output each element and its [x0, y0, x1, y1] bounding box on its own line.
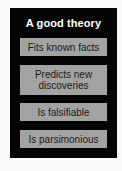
theory-criteria-panel: A good theory Fits known facts Predicts … — [10, 8, 117, 158]
criterion-label: Is parsimonious — [28, 134, 98, 145]
criterion-box-predicts-new-discoveries: Predicts new discoveries — [20, 65, 107, 95]
criterion-label: Fits known facts — [28, 42, 100, 53]
criterion-label: Predicts new discoveries — [22, 69, 105, 91]
criterion-box-fits-known-facts: Fits known facts — [20, 38, 107, 56]
panel-title: A good theory — [10, 17, 117, 30]
criterion-box-is-falsifiable: Is falsifiable — [20, 103, 107, 121]
criterion-label: Is falsifiable — [37, 107, 89, 118]
criterion-box-is-parsimonious: Is parsimonious — [20, 130, 107, 148]
